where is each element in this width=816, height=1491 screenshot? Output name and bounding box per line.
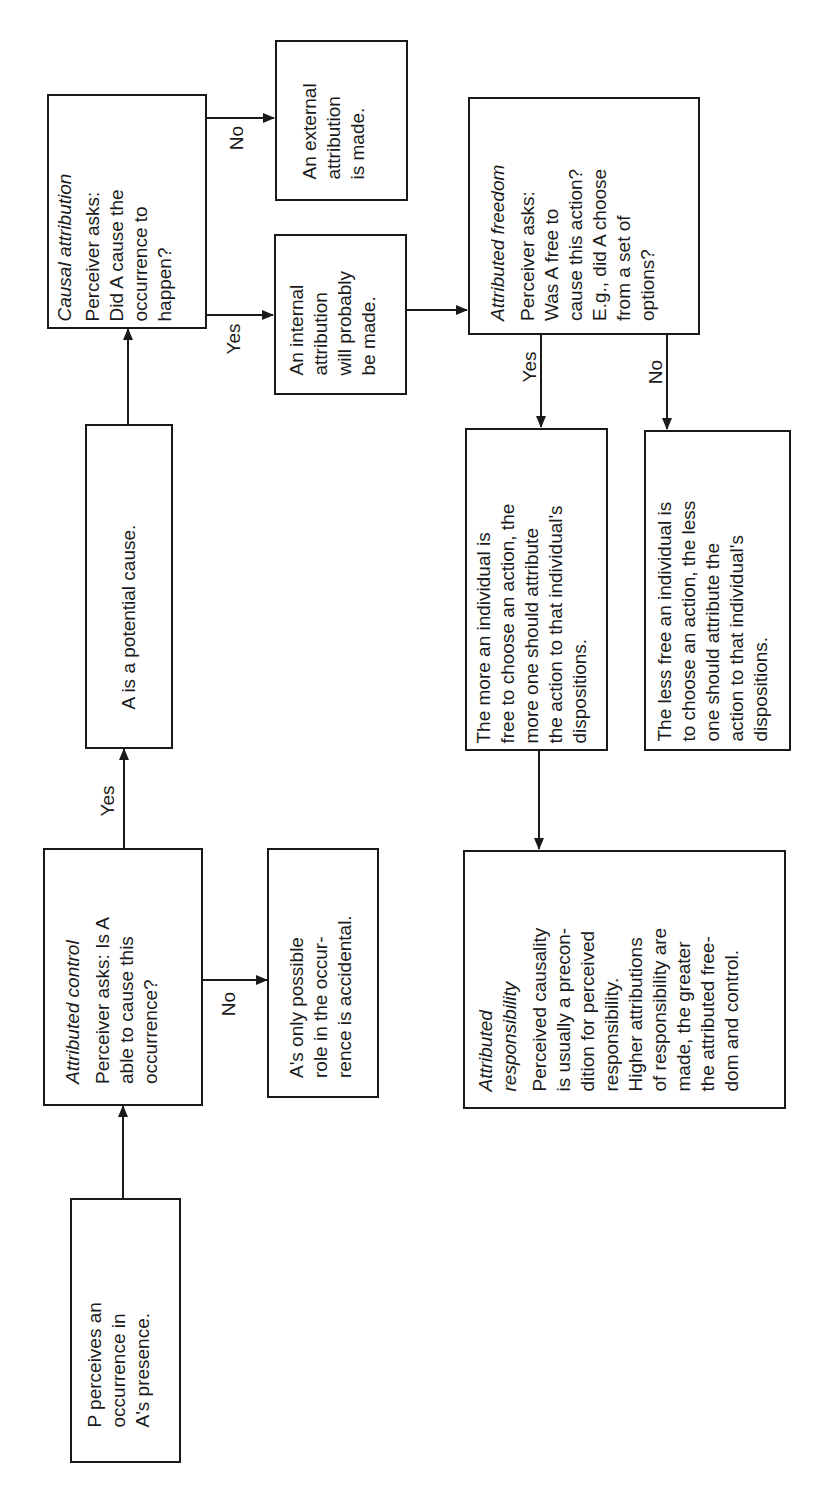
node-line: is made.	[345, 40, 369, 179]
node-line: options?	[636, 97, 660, 321]
node-line: Perceiver asks:	[516, 97, 540, 321]
node-line: of responsibility are	[647, 850, 671, 1091]
node-line: attribution	[321, 40, 345, 179]
edge-label-freedom-no: No	[645, 360, 667, 384]
node-line: The more an individual is	[471, 428, 495, 743]
node-line: free to choose an action, the	[495, 428, 519, 743]
node-line: occurrence?	[139, 848, 163, 1084]
node-line: Perceiver asks:	[81, 94, 105, 321]
node-line: dition for perceived	[575, 850, 599, 1091]
node-line: A is a potential cause.	[117, 424, 141, 709]
edge-label-causal-yes: Yes	[223, 324, 245, 355]
node-external-attribution: An external attribution is made.	[275, 40, 408, 201]
edge-label-causal-no: No	[226, 126, 248, 150]
node-start-line: P perceives an	[82, 1198, 106, 1427]
node-heading: responsibility	[497, 850, 521, 1091]
node-start: P perceives an occurrence in A's presenc…	[70, 1198, 181, 1463]
node-line: Did A cause the	[105, 94, 129, 321]
node-line: happen?	[153, 94, 177, 321]
node-line: Was A free to	[540, 97, 564, 321]
node-heading: Attributed freedom	[486, 97, 510, 321]
node-line: An external	[297, 40, 321, 179]
edge-label-control-yes: Yes	[97, 786, 119, 817]
node-line: made, the greater	[671, 850, 695, 1091]
node-line: will probably	[332, 234, 356, 375]
node-line: Perceiver asks: Is A	[91, 848, 115, 1084]
node-attributed-responsibility: Attributed responsibility Perceived caus…	[463, 850, 786, 1109]
node-line: E.g., did A choose	[588, 97, 612, 321]
node-line: action to that individual's	[724, 430, 748, 741]
node-line: rence is accidental.	[333, 848, 357, 1078]
node-line: Perceived causality	[527, 850, 551, 1091]
node-line: is usually a precon-	[551, 850, 575, 1091]
node-causal-attribution: Causal attribution Perceiver asks: Did A…	[47, 94, 207, 329]
node-line: one should attribute the	[700, 430, 724, 741]
node-attributed-control: Attributed control Perceiver asks: Is A …	[43, 848, 203, 1106]
node-line: An internal	[284, 234, 308, 375]
node-line: occurrence to	[129, 94, 153, 321]
node-line: from a set of	[612, 97, 636, 321]
node-heading: Attributed	[473, 850, 497, 1091]
node-less-free: The less free an individual is to choose…	[644, 430, 791, 751]
node-line: to choose an action, the less	[676, 430, 700, 741]
edge-label-freedom-yes: Yes	[519, 352, 541, 383]
node-line: more one should attribute	[519, 428, 543, 743]
node-potential-cause: A is a potential cause.	[85, 424, 173, 749]
node-heading: Causal attribution	[53, 94, 77, 321]
node-heading: Attributed control	[61, 848, 85, 1084]
node-attributed-freedom: Attributed freedom Perceiver asks: Was A…	[468, 97, 700, 335]
node-line: able to cause this	[115, 848, 139, 1084]
node-line: dispositions.	[748, 430, 772, 741]
node-accidental: A's only possible role in the occur- ren…	[267, 848, 379, 1098]
node-more-free: The more an individual is free to choose…	[465, 428, 608, 751]
node-line: be made.	[356, 234, 380, 375]
node-start-line: occurrence in	[106, 1198, 130, 1427]
node-line: cause this action?	[564, 97, 588, 321]
node-internal-attribution: An internal attribution will probably be…	[274, 234, 407, 395]
node-line: the attributed free-	[695, 850, 719, 1091]
node-line: attribution	[308, 234, 332, 375]
node-line: dispositions.	[567, 428, 591, 743]
node-line: the action to that individual's	[543, 428, 567, 743]
node-line: responsibility.	[599, 850, 623, 1091]
node-line: Higher attributions	[623, 850, 647, 1091]
node-line: The less free an individual is	[652, 430, 676, 741]
node-line: role in the occur-	[309, 848, 333, 1078]
edge-label-control-no: No	[218, 992, 240, 1016]
node-line: dom and control.	[719, 850, 743, 1091]
node-line: A's only possible	[285, 848, 309, 1078]
node-start-line: A's presence.	[130, 1198, 154, 1427]
